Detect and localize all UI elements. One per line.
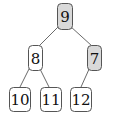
tree-node-9: 9 [58,4,73,30]
tree-node-10: 10 [10,88,31,112]
tree-node-11: 11 [41,88,62,112]
edge-n7-n12 [81,67,90,87]
node-label: 10 [10,91,29,109]
node-label: 9 [60,8,70,26]
tree-node-8: 8 [29,46,43,71]
edge-n8-n10 [20,67,30,87]
node-label: 12 [71,91,90,109]
node-label: 7 [90,50,100,68]
node-label: 8 [31,50,41,68]
edge-n9-n7 [70,26,92,46]
tree-nodes: 987101112 [10,4,102,112]
tree-node-7: 7 [88,46,102,71]
tree-node-12: 12 [71,88,92,112]
node-label: 11 [41,91,60,109]
tree-diagram: 987101112 [0,0,114,118]
edge-n9-n8 [39,26,59,46]
